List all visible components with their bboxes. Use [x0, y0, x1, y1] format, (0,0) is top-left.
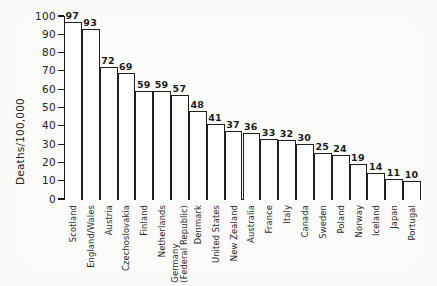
y-tick-label: 50 — [6, 102, 56, 112]
category-label: Czechoslovakia — [118, 203, 136, 283]
y-tick-label: 10 — [6, 175, 56, 185]
y-tick-label: 80 — [6, 47, 56, 57]
bar — [314, 153, 332, 200]
category-label: Scotland — [64, 203, 82, 283]
bar-value-label: 33 — [262, 128, 276, 138]
bar — [82, 29, 100, 200]
bar-value-label: 69 — [119, 62, 133, 72]
category-label-text: New Zealand — [229, 205, 238, 261]
y-tick-label: 0 — [6, 194, 56, 204]
bar — [225, 131, 243, 200]
bar — [64, 22, 82, 201]
category-label: Finland — [135, 203, 153, 283]
category-label: Netherlands — [153, 203, 171, 283]
bar-series: 9793726959595748413736333230252419141110 — [64, 16, 421, 200]
category-label-text: Sweden — [319, 205, 328, 239]
bar-value-label: 32 — [280, 129, 294, 139]
category-label: United States — [207, 203, 225, 283]
category-label-text: Germany(Federal Republic) — [171, 205, 188, 283]
bar — [100, 67, 118, 200]
category-label-text: England/Wales — [86, 205, 95, 268]
bar-value-label: 41 — [208, 113, 222, 123]
category-label-text: Portugal — [408, 205, 417, 241]
category-label-text: Netherlands — [158, 205, 167, 257]
y-tick-label: 100 — [6, 11, 56, 21]
bar — [350, 164, 368, 200]
bar — [278, 140, 296, 200]
bar — [171, 95, 189, 200]
category-label: Germany(Federal Republic) — [171, 203, 189, 283]
category-label-text: Australia — [247, 205, 256, 243]
bar — [367, 173, 385, 200]
bar-value-label: 36 — [244, 122, 258, 132]
category-label: Austria — [100, 203, 118, 283]
bar — [260, 139, 278, 200]
category-label-text: Austria — [104, 205, 113, 235]
category-label-text: Italy — [283, 205, 292, 224]
bar — [403, 181, 421, 200]
category-label-text: Finland — [140, 205, 149, 236]
category-label-text: Iceland — [372, 205, 381, 236]
bar-value-label: 59 — [137, 80, 151, 90]
category-label-text: Norway — [354, 205, 363, 237]
category-label-text: Scotland — [69, 205, 78, 242]
x-axis-category-labels: ScotlandEngland/WalesAustriaCzechoslovak… — [64, 203, 421, 286]
category-label: New Zealand — [225, 203, 243, 283]
category-label: Australia — [243, 203, 261, 283]
bar-value-label: 93 — [83, 18, 97, 28]
category-label-text: Poland — [336, 205, 345, 234]
category-label: Canada — [296, 203, 314, 283]
bar-value-label: 11 — [387, 168, 401, 178]
bar-value-label: 10 — [405, 170, 419, 180]
bar — [189, 111, 207, 200]
y-tick-label: 20 — [6, 157, 56, 167]
category-label: Italy — [278, 203, 296, 283]
y-tick-label: 40 — [6, 120, 56, 130]
y-tick-label: 60 — [6, 84, 56, 94]
bar — [118, 73, 136, 200]
bar — [296, 144, 314, 200]
bar-value-label: 30 — [298, 133, 312, 143]
bar — [135, 91, 153, 200]
bar — [153, 91, 171, 200]
y-tick-label: 30 — [6, 139, 56, 149]
category-label: Sweden — [314, 203, 332, 283]
chart-figure: Deaths/100,000 1009080706050403020100 97… — [0, 0, 437, 286]
category-label: Japan — [385, 203, 403, 283]
bar-value-label: 19 — [351, 153, 365, 163]
y-tick-label: 70 — [6, 65, 56, 75]
category-label-text: France — [265, 205, 274, 233]
bar-value-label: 25 — [315, 142, 329, 152]
bar — [385, 179, 403, 200]
category-label-text: Japan — [390, 205, 399, 229]
bar-value-label: 24 — [333, 144, 347, 154]
bar — [243, 133, 261, 200]
bar-value-label: 37 — [226, 120, 240, 130]
y-axis-ticks: 1009080706050403020100 — [0, 0, 64, 286]
category-label: Portugal — [403, 203, 421, 283]
category-label: France — [260, 203, 278, 283]
bar-value-label: 72 — [101, 56, 115, 66]
bar-value-label: 57 — [173, 84, 187, 94]
category-label-text: Canada — [301, 205, 310, 237]
bar-value-label: 59 — [155, 80, 169, 90]
category-label: Norway — [350, 203, 368, 283]
category-label: Iceland — [367, 203, 385, 283]
y-tick-label: 90 — [6, 29, 56, 39]
category-label: Poland — [332, 203, 350, 283]
category-label-text: Denmark — [194, 205, 203, 244]
bar — [332, 155, 350, 200]
category-label-text: United States — [211, 205, 220, 263]
category-label: England/Wales — [82, 203, 100, 283]
category-label-text: Czechoslovakia — [122, 205, 131, 271]
category-label: Denmark — [189, 203, 207, 283]
bar — [207, 124, 225, 200]
bar-value-label: 97 — [66, 11, 80, 21]
bar-value-label: 14 — [369, 162, 383, 172]
bar-value-label: 48 — [190, 100, 204, 110]
